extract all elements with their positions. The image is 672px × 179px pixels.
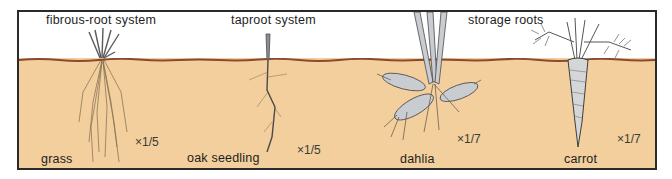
plant-label-oak-seedling: oak seedling	[187, 151, 260, 165]
scale-grass: ×1/5	[135, 135, 159, 149]
heading-storage-roots: storage roots	[468, 13, 544, 27]
heading-fibrous-root-system: fibrous-root system	[46, 13, 156, 27]
plant-label-dahlia: dahlia	[400, 152, 435, 166]
scale-carrot: ×1/7	[617, 132, 641, 146]
plant-label-carrot: carrot	[564, 152, 597, 166]
carrot-illustration	[19, 12, 655, 168]
scale-dahlia: ×1/7	[457, 132, 481, 146]
root-systems-diagram: fibrous-root system taproot system stora…	[17, 10, 657, 170]
scale-oak-seedling: ×1/5	[297, 143, 321, 157]
heading-taproot-system: taproot system	[231, 13, 316, 27]
plant-label-grass: grass	[41, 152, 73, 166]
